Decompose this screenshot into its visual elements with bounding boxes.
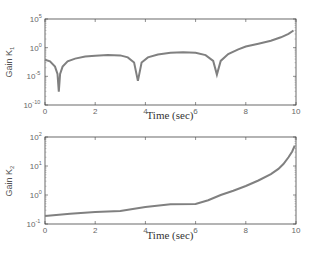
x-axis-label: Time (sec) — [147, 229, 194, 242]
chart-canvas: 0246810 10510010-510-10 Time (sec) Gain … — [0, 0, 315, 258]
y-tick-label: 10-5 — [27, 70, 41, 81]
x-tick-label: 0 — [43, 107, 48, 116]
y-axis-label: Gain K1 — [4, 46, 15, 78]
x-tick-label: 10 — [292, 107, 301, 116]
y-tick-label: 102 — [30, 131, 42, 142]
x-tick-label: 8 — [244, 226, 249, 235]
y-tick-label: 100 — [30, 42, 42, 53]
y-tick-label: 100 — [30, 189, 42, 200]
x-tick-label: 10 — [292, 226, 301, 235]
figure: 0246810 10510010-510-10 Time (sec) Gain … — [0, 0, 315, 258]
x-tick-label: 8 — [244, 107, 249, 116]
x-tick-label: 2 — [93, 107, 98, 116]
x-tick-label: 6 — [193, 226, 198, 235]
x-tick-label: 6 — [193, 107, 198, 116]
subplot-gain-k2: 0246810 10210110010-1 Time (sec) Gain K2 — [4, 131, 301, 242]
y-tick-label: 10-10 — [23, 99, 40, 110]
y-tick-label: 101 — [30, 160, 42, 171]
x-tick-label: 0 — [43, 226, 48, 235]
subplot-gain-k1: 0246810 10510010-510-10 Time (sec) Gain … — [4, 13, 301, 122]
y-tick-label: 105 — [30, 13, 42, 24]
y-axis-label: Gain K2 — [4, 165, 15, 197]
x-axis-label: Time (sec) — [147, 109, 194, 122]
axes-frame — [45, 19, 296, 105]
x-tick-label: 2 — [93, 226, 98, 235]
y-tick-label: 10-1 — [27, 218, 41, 229]
